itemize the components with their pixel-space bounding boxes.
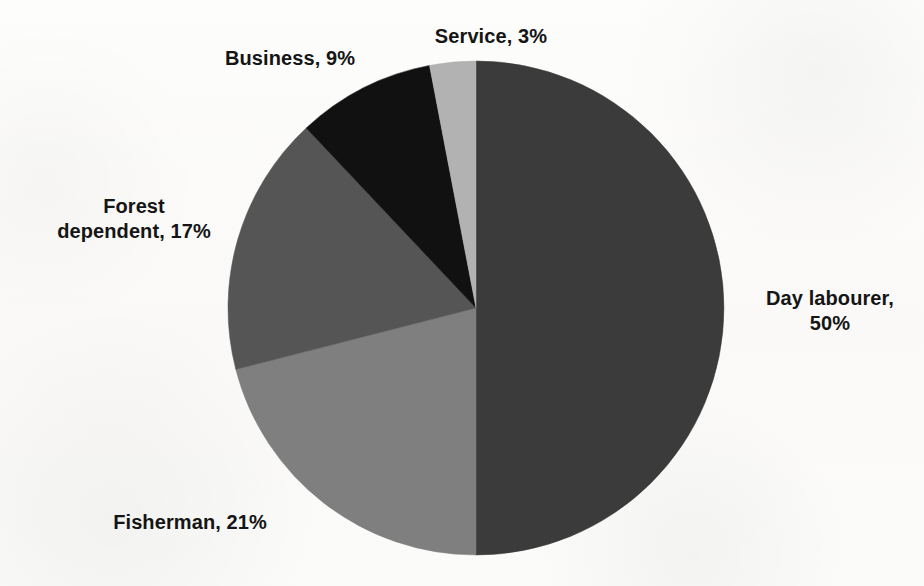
pie-slice-day-labourer — [476, 61, 724, 555]
pie-label-fisherman: Fisherman, 21% — [40, 510, 340, 535]
pie-label-forest-dependent: Forest dependent, 17% — [14, 194, 254, 244]
pie-label-business: Business, 9% — [160, 46, 420, 71]
pie-chart-figure: Service, 3% Business, 9% Forest dependen… — [0, 0, 924, 586]
pie-slice-group — [228, 61, 724, 555]
pie-label-day-labourer: Day labourer, 50% — [740, 286, 920, 336]
